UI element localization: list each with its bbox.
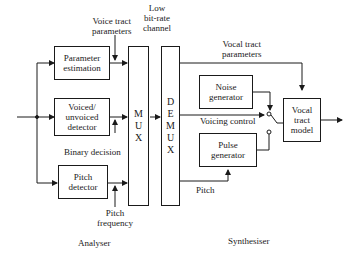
low-bitrate-channel-label: Low bit-rate channel: [143, 3, 171, 33]
mux-letter: M: [134, 108, 143, 120]
pitch-frequency-label: Pitch frequency: [97, 208, 133, 228]
mux-letter: U: [135, 120, 142, 132]
pulse-generator-label: Pulse generator: [211, 140, 245, 160]
noise-generator-block: Noise generator: [199, 75, 253, 109]
analyser-section-label: Analyser: [78, 238, 111, 248]
demux-letter: E: [167, 108, 173, 120]
vocal-tract-parameters-label: Vocal tract parameters: [222, 39, 261, 59]
demux-letter: M: [166, 120, 175, 132]
demux-letter: X: [167, 144, 174, 156]
demux-block: D E M U X: [161, 46, 180, 206]
pitch-detector-block: Pitch detector: [58, 165, 108, 199]
synthesiser-section-label: Synthesiser: [228, 236, 270, 246]
pitch-label: Pitch: [196, 185, 215, 195]
noise-generator-label: Noise generator: [209, 82, 243, 102]
pulse-generator-block: Pulse generator: [199, 133, 257, 167]
vocal-tract-model-block: Vocal tract model: [283, 98, 321, 142]
voiced-unvoiced-detector-block: Voiced/ unvoiced detector: [54, 98, 110, 136]
vocal-tract-model-label: Vocal tract model: [291, 105, 314, 135]
voiced-unvoiced-detector-label: Voiced/ unvoiced detector: [66, 102, 99, 132]
demux-letter: D: [167, 96, 174, 108]
voice-tract-parameters-label: Voice tract parameters: [92, 16, 131, 36]
demux-letter: U: [167, 132, 174, 144]
parameter-estimation-label: Parameter estimation: [63, 53, 101, 73]
pitch-detector-label: Pitch detector: [69, 172, 98, 192]
mux-letter: X: [135, 132, 142, 144]
mux-block: M U X: [128, 46, 149, 206]
parameter-estimation-block: Parameter estimation: [54, 46, 110, 80]
voicing-control-label: Voicing control: [200, 116, 256, 126]
binary-decision-label: Binary decision: [64, 147, 121, 157]
